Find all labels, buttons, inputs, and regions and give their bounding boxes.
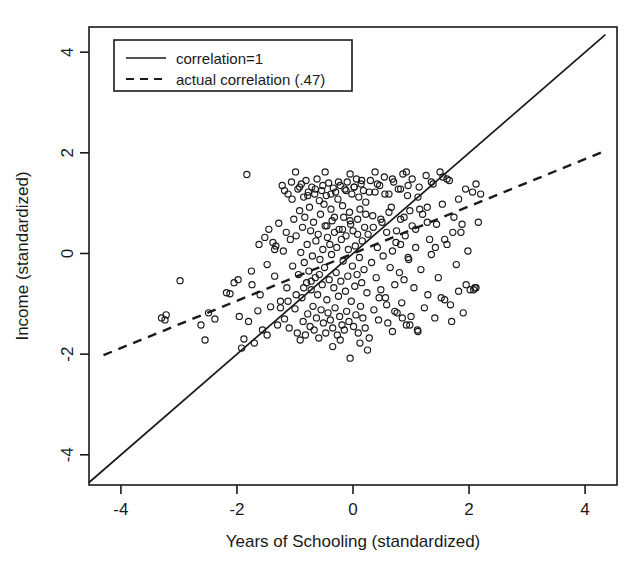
scatter-point (334, 244, 340, 250)
scatter-point (370, 224, 376, 230)
x-axis-title: Years of Schooling (standardized) (226, 532, 481, 551)
scatter-point (283, 229, 289, 235)
scatter-point (306, 204, 312, 210)
scatter-point (367, 177, 373, 183)
scatter-point (343, 233, 349, 239)
legend-label-correlation-one: correlation=1 (176, 50, 263, 67)
scatter-point (465, 248, 471, 254)
scatter-point (313, 315, 319, 321)
scatter-point (332, 305, 338, 311)
scatter-point (373, 275, 379, 281)
scatter-point (363, 199, 369, 205)
x-tick-label: -4 (113, 500, 128, 519)
scatter-point (385, 320, 391, 326)
scatter-point (364, 290, 370, 296)
scatter-point (292, 169, 298, 175)
y-axis-tick-labels: -4-2024 (58, 47, 77, 462)
y-tick-label: 2 (58, 148, 77, 157)
scatter-point (396, 270, 402, 276)
y-tick-label: -2 (58, 347, 77, 362)
scatter-point (370, 213, 376, 219)
scatter-point (384, 229, 390, 235)
scatter-point (293, 233, 299, 239)
scatter-point (346, 209, 352, 215)
scatter-points-group (158, 169, 483, 361)
scatter-point (301, 285, 307, 291)
scatter-point (355, 216, 361, 222)
scatter-point (351, 184, 357, 190)
scatter-point (212, 316, 218, 322)
scatter-point (426, 236, 432, 242)
scatter-point (276, 220, 282, 226)
scatter-point (310, 219, 316, 225)
scatter-point (289, 196, 295, 202)
scatter-point (356, 194, 362, 200)
scatter-point (316, 335, 322, 341)
scatter-point (368, 259, 374, 265)
scatter-point (355, 231, 361, 237)
trend-lines-group (89, 35, 605, 483)
scatter-point (357, 340, 363, 346)
scatter-point (338, 278, 344, 284)
scatter-point (456, 288, 462, 294)
scatter-point (421, 305, 427, 311)
scatter-point (277, 298, 283, 304)
scatter-point (347, 355, 353, 361)
scatter-point (331, 285, 337, 291)
scatter-point (463, 282, 469, 288)
scatter-point (355, 330, 361, 336)
scatter-point (453, 261, 459, 267)
scatter-point (281, 316, 287, 322)
scatter-point (177, 278, 183, 284)
scatter-point (290, 263, 296, 269)
scatter-point (418, 266, 424, 272)
scatter-point (350, 323, 356, 329)
reference-line-correlation-one (89, 35, 605, 483)
scatter-point (325, 310, 331, 316)
scatter-point (314, 176, 320, 182)
scatter-point (256, 241, 262, 247)
legend-label-actual-correlation: actual correlation (.47) (176, 71, 325, 88)
scatter-point (384, 302, 390, 308)
scatter-point (447, 302, 453, 308)
scatter-point (362, 325, 368, 331)
scatter-point (442, 236, 448, 242)
scatter-point (387, 264, 393, 270)
scatter-point (360, 315, 366, 321)
scatter-point (432, 244, 438, 250)
scatter-point (365, 231, 371, 237)
scatter-point (305, 311, 311, 317)
scatter-point (337, 337, 343, 343)
scatter-point (284, 285, 290, 291)
scatter-point (353, 312, 359, 318)
x-tick-label: -2 (229, 500, 244, 519)
scatter-point (297, 208, 303, 214)
scatter-point (264, 332, 270, 338)
scatter-point (411, 285, 417, 291)
scatter-point (297, 337, 303, 343)
scatter-point (302, 214, 308, 220)
scatter-point (323, 330, 329, 336)
scatter-point (320, 320, 326, 326)
y-axis-title: Income (standardized) (13, 171, 32, 340)
scatter-point (409, 223, 415, 229)
scatter-point (266, 226, 272, 232)
scatter-point (302, 332, 308, 338)
scatter-point (335, 293, 341, 299)
scatter-point (294, 330, 300, 336)
scatter-point (272, 273, 278, 279)
scatter-point (359, 280, 365, 286)
scatter-point (352, 283, 358, 289)
scatter-point (371, 307, 377, 313)
scatter-point (320, 246, 326, 252)
scatter-point (354, 272, 360, 278)
scatter-point (330, 325, 336, 331)
scatter-point (347, 171, 353, 177)
scatter-point (315, 231, 321, 237)
scatter-point (345, 273, 351, 279)
scatter-point (280, 248, 286, 254)
scatter-point (349, 263, 355, 269)
scatter-point (327, 241, 333, 247)
scatter-point (416, 184, 422, 190)
scatter-point (357, 206, 363, 212)
